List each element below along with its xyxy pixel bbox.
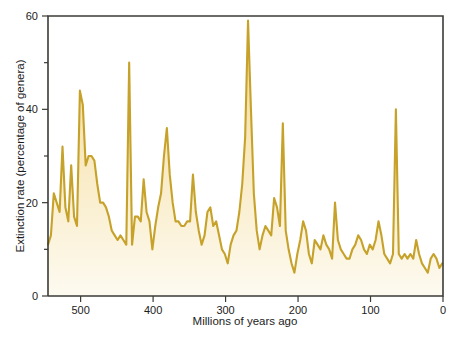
y-tick-label: 0 [32,290,38,302]
extinction-rate-area-chart: 5004003002001000 0204060 Millions of yea… [0,0,465,348]
x-tick-label: 500 [71,304,89,316]
y-tick-label: 60 [26,10,38,22]
y-tick-label: 20 [26,197,38,209]
x-tick-label: 0 [440,304,446,316]
x-tick-label: 100 [361,304,379,316]
x-axis-ticks [81,296,443,302]
y-tick-label: 40 [26,103,38,115]
x-tick-label: 400 [144,304,162,316]
y-axis-ticks [42,16,48,296]
plot-area [48,16,443,296]
x-axis-label: Millions of years ago [193,315,298,327]
y-axis-label: Extinction rate (percentage of genera) [14,59,26,252]
y-axis-tick-labels: 0204060 [26,10,38,302]
figure-container: 5004003002001000 0204060 Millions of yea… [0,0,465,348]
